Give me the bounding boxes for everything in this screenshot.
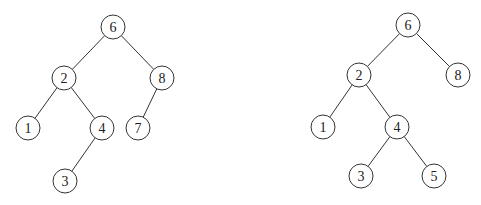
left-tree: 6281473 [16,15,174,193]
tree-edge [143,89,157,117]
right-tree: 6281435 [311,13,470,188]
right-tree-edges [330,33,450,166]
node-label: 4 [394,120,401,135]
node-label: 3 [358,169,365,184]
node-label: 1 [320,120,327,135]
tree-node-4: 4 [90,116,114,140]
node-label: 3 [62,174,69,189]
tree-node-5: 5 [422,164,446,188]
tree-node-8: 8 [446,63,470,87]
tree-edge [71,88,94,119]
tree-edge [72,138,95,171]
tree-edge [416,33,449,66]
binary-tree-diagram: 6281473 6281435 [0,0,481,205]
tree-edge [72,36,104,70]
tree-node-8: 8 [150,66,174,90]
left-tree-edges [35,36,157,172]
tree-edge [330,85,352,117]
node-label: 6 [405,18,412,33]
tree-node-6: 6 [396,13,420,37]
node-label: 8 [159,71,166,86]
node-label: 1 [25,121,32,136]
tree-edge [404,137,427,167]
tree-node-2: 2 [52,66,76,90]
tree-edge [368,137,390,167]
tree-edge [366,85,390,118]
node-label: 2 [61,71,68,86]
node-label: 2 [356,68,363,83]
tree-node-3: 3 [53,169,77,193]
tree-node-1: 1 [16,116,40,140]
node-label: 7 [135,121,142,136]
node-label: 6 [110,20,117,35]
tree-node-7: 7 [126,116,150,140]
node-label: 8 [455,68,462,83]
tree-node-3: 3 [349,164,373,188]
tree-node-4: 4 [385,115,409,139]
node-label: 5 [431,169,438,184]
tree-edge [121,36,153,70]
tree-node-6: 6 [101,15,125,39]
tree-edge [35,88,57,119]
tree-node-2: 2 [347,63,371,87]
tree-node-1: 1 [311,115,335,139]
tree-edge [367,34,399,67]
node-label: 4 [99,121,106,136]
